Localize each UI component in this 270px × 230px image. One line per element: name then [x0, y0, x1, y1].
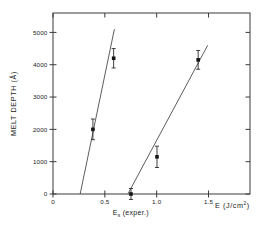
- plot-frame: [53, 13, 250, 194]
- x-tick-label-2: 1.0: [152, 198, 162, 205]
- fit-line-right: [128, 45, 208, 194]
- y-tick-label-3: 3000: [33, 93, 48, 100]
- melt-depth-vs-energy-figure: 01000200030004000500000.51.01.5MELT DEPT…: [0, 0, 270, 230]
- melt-depth-points-left-point-0: [91, 128, 95, 132]
- melt-depth-points-right-point-2: [196, 58, 200, 62]
- melt-depth-chart-svg: 01000200030004000500000.51.01.5MELT DEPT…: [0, 0, 270, 230]
- x-tick-label-3: 1.5: [204, 198, 214, 205]
- y-tick-label-1: 1000: [33, 158, 48, 165]
- threshold-energy-annotation: Es (exper.): [113, 209, 149, 218]
- y-tick-label-4: 4000: [33, 61, 48, 68]
- x-axis-label: E (J/cm2): [215, 201, 250, 210]
- x-tick-label-0: 0: [51, 198, 55, 205]
- fit-line-left: [80, 29, 114, 194]
- y-tick-label-5: 5000: [33, 29, 48, 36]
- x-tick-label-1: 0.5: [100, 198, 110, 205]
- melt-depth-points-left-point-1: [112, 56, 116, 60]
- y-tick-label-2: 2000: [33, 126, 48, 133]
- y-axis-label: MELT DEPTH (Å): [9, 71, 18, 136]
- melt-depth-points-right-point-0: [129, 192, 133, 196]
- y-tick-label-0: 0: [44, 190, 48, 197]
- melt-depth-points-right-point-1: [155, 155, 159, 159]
